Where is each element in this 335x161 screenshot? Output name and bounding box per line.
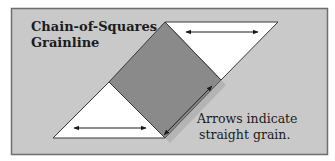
diagram-title-line1: Chain-of-Squares <box>31 19 157 34</box>
chain-of-squares-diagram: Chain-of-Squares Grainline Arrows indica… <box>0 0 335 161</box>
caption-line1: Arrows indicate <box>196 111 298 126</box>
caption-line2: straight grain. <box>199 127 290 142</box>
diagram-title-line2: Grainline <box>31 35 99 50</box>
